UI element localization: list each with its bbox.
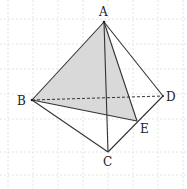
vertex-label-b: B [17,94,26,108]
vertex-label-e: E [140,122,149,136]
vertex-a-point [103,21,106,24]
diagram-canvas: A B C D E [0,0,187,189]
vertex-label-c: C [103,155,112,169]
vertex-d-point [162,95,164,97]
tetrahedron-figure: A B C D E [0,0,187,189]
shaded-face-abe [32,22,137,121]
vertex-label-d: D [166,90,176,104]
vertex-b-point [31,99,34,102]
vertex-label-a: A [98,5,108,19]
